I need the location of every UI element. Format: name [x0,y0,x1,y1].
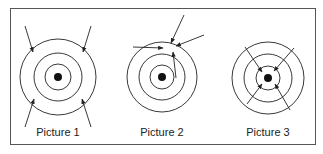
caption-picture-3: Picture 3 [228,126,308,138]
arrow-from-right [176,35,204,46]
caption-picture-2: Picture 2 [122,126,202,138]
center-dot [54,73,62,81]
arrow-from-top [171,15,184,43]
arrow-bottom-right [82,99,91,127]
caption-picture-1: Picture 1 [18,126,98,138]
arrow-bottom-left [25,99,34,127]
arrow-top-right [83,26,91,52]
picture-2 [127,15,204,112]
arrow-from-top-left [245,47,262,72]
center-dot [264,74,272,82]
picture-1 [20,26,96,127]
arrow-from-bottom-right [275,84,290,110]
arrow-from-left [133,47,163,48]
arrow-top-left [25,26,33,52]
picture-3 [232,42,304,114]
arrow-from-top-right [274,48,294,71]
center-dot [158,73,166,81]
